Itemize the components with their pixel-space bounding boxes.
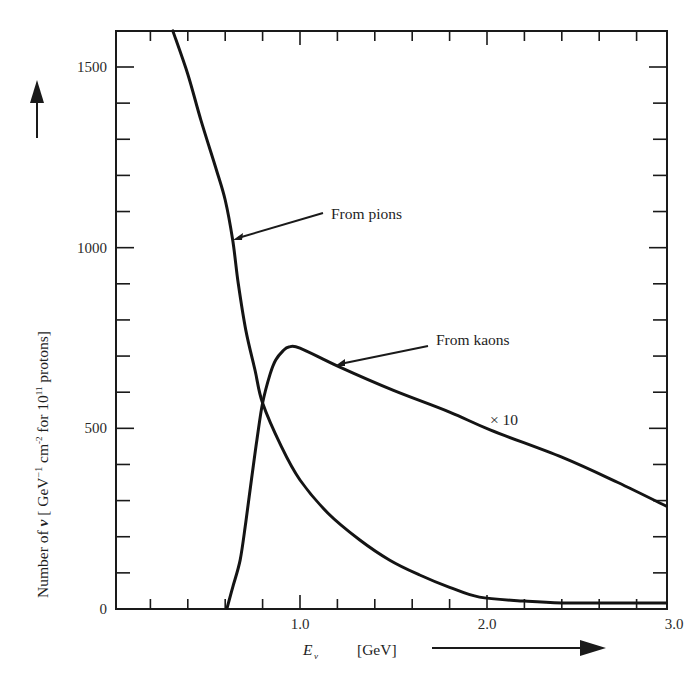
arrow-right-icon — [580, 640, 606, 656]
arrow-up-icon — [30, 80, 44, 103]
pion-label: From pions — [331, 205, 402, 222]
svg-text:ν: ν — [314, 651, 318, 661]
svg-text:E: E — [302, 641, 313, 658]
x-tick-label: 3.0 — [665, 616, 684, 632]
x-axis-tick-labels: 1.02.03.0 — [291, 616, 684, 632]
y-axis-label: Number of ν [ GeV−1 cm-2 for 1011 proton… — [33, 331, 51, 598]
y-axis-direction-arrow — [30, 80, 44, 138]
svg-text:[GeV]: [GeV] — [357, 641, 397, 658]
scale-factor-label: × 10 — [490, 411, 518, 428]
y-tick-label: 500 — [85, 420, 108, 436]
x-axis-label: E ν [GeV] — [302, 641, 397, 661]
pion-leader-line — [238, 213, 323, 238]
svg-text:Number of ν [ GeV−1 cm-2 for: Number of ν [ GeV−1 cm-2 for 1011 proton… — [33, 331, 51, 598]
pion-annotation: From pions — [233, 205, 402, 240]
x-axis-direction-arrow — [432, 640, 606, 656]
x-tick-label: 2.0 — [478, 616, 497, 632]
x-tick-label: 1.0 — [291, 616, 310, 632]
neutrino-flux-chart: 050010001500 1.02.03.0 From pions From k… — [0, 0, 698, 681]
kaon-curve — [227, 346, 666, 608]
kaon-label: From kaons — [436, 331, 510, 348]
y-tick-label: 1000 — [77, 240, 107, 256]
y-tick-label: 1500 — [77, 59, 107, 75]
kaon-annotation: From kaons — [335, 331, 510, 366]
kaon-leader-line — [340, 346, 428, 364]
arrowhead-icon — [233, 233, 243, 240]
y-axis-tick-labels: 050010001500 — [77, 59, 107, 617]
y-tick-label: 0 — [100, 601, 108, 617]
arrowhead-icon — [335, 359, 345, 366]
